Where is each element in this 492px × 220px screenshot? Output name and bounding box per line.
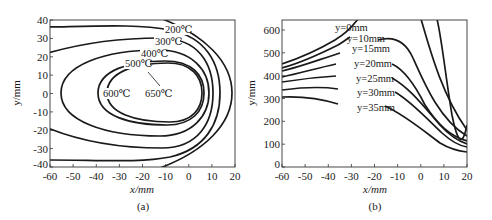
tick-label: 20: [37, 51, 49, 63]
label-650: 650℃: [145, 88, 173, 99]
y-axis-label-a: y/mm: [10, 80, 22, 106]
tick-label: 30: [37, 32, 49, 44]
panel-b: -60 -50 -40 -30 -20 -10 0 10 20 600 500 …: [245, 19, 473, 213]
tick-label: 600: [264, 24, 281, 36]
tick-label: -10: [390, 170, 405, 182]
label-y30: y=30mm: [357, 87, 395, 98]
tick-label: 0: [43, 88, 49, 100]
panel-a: -60 -50 -40 -30 -20 -10 0 10 20 40 30 20: [10, 14, 241, 213]
leader-line-650: [148, 72, 160, 86]
x-axis-label-a: x/mm: [129, 183, 154, 195]
tick-label: -50: [298, 170, 313, 182]
tick-label: 10: [206, 170, 218, 182]
tick-label: 10: [438, 170, 450, 182]
contour-lines: [48, 18, 232, 168]
label-y35: y=35mm: [357, 102, 395, 113]
tick-label: 10: [37, 69, 49, 81]
plot-frame-a: [50, 20, 235, 167]
tick-label: 300: [264, 93, 281, 105]
tick-label: 0: [186, 170, 192, 182]
caption-a: (a): [137, 200, 150, 213]
tick-label: -50: [66, 170, 81, 182]
tick-label: -40: [89, 170, 104, 182]
tick-label: 20: [462, 170, 474, 182]
y-tick-labels-b: 600 500 400 300 200 100 0: [264, 24, 281, 170]
label-y20: y=20mm: [354, 58, 392, 69]
tick-label: -10: [33, 106, 48, 118]
tick-label: -60: [275, 170, 290, 182]
tick-label: -40: [321, 170, 336, 182]
tick-label: 100: [264, 138, 281, 150]
curve-y0-right: [437, 19, 467, 139]
tick-label: 0: [275, 158, 281, 170]
x-tick-labels-b: -60 -50 -40 -30 -20 -10 0 10 20: [275, 170, 473, 182]
tick-label: -10: [158, 170, 173, 182]
label-y25: y=25mm: [356, 73, 394, 84]
label-y15: y=15mm: [352, 43, 390, 54]
tick-label: -20: [367, 170, 382, 182]
y-axis-label-b: y/mm: [245, 80, 257, 106]
curve-y35: [282, 97, 338, 104]
tick-label: 40: [37, 14, 49, 26]
figure: -60 -50 -40 -30 -20 -10 0 10 20 40 30 20: [0, 0, 492, 220]
y-tick-labels-a: 40 30 20 10 0 -10 -20 -30 -40: [33, 14, 48, 170]
tick-label: -30: [33, 143, 48, 155]
tick-label: -40: [33, 158, 48, 170]
y-axis-b: [282, 30, 285, 167]
contour-400: [48, 38, 213, 148]
curve-y25: [282, 76, 336, 82]
label-600: 600℃: [103, 88, 131, 99]
tick-label: 500: [264, 47, 281, 59]
curve-y15: [282, 53, 340, 71]
curve-y10-right: [421, 19, 467, 130]
tick-label: 200: [264, 115, 281, 127]
tick-label: -20: [135, 170, 150, 182]
label-200: 200℃: [165, 24, 193, 35]
tick-label: -30: [344, 170, 359, 182]
tick-label: -20: [33, 124, 48, 136]
tick-label: 0: [418, 170, 424, 182]
x-tick-labels-a: -60 -50 -40 -30 -20 -10 0 10 20: [43, 170, 241, 182]
tick-label: -30: [112, 170, 127, 182]
tick-label: -60: [43, 170, 58, 182]
label-y0: y=0mm: [335, 22, 368, 33]
curve-y30: [282, 88, 338, 90]
tick-label: 20: [230, 170, 242, 182]
caption-b: (b): [369, 200, 382, 213]
contour-labels-a: 200℃ 300℃ 400℃ 500℃ 600℃ 650℃: [102, 24, 193, 99]
curve-labels-b: y=0mm y=10mm y=15mm y=20mm y=25mm y=30mm…: [335, 22, 395, 113]
tick-label: 400: [264, 70, 281, 82]
x-axis-label-b: x/mm: [362, 183, 387, 195]
label-300: 300℃: [155, 36, 183, 47]
label-500: 500℃: [125, 58, 153, 69]
